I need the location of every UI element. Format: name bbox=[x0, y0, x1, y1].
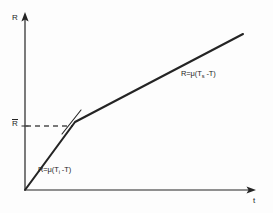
curve-label-upper-prefix: R=μ(T bbox=[181, 69, 202, 78]
curve-label-lower: R=μ(Ti -T) bbox=[38, 165, 71, 174]
curve-label-lower-prefix: R=μ(T bbox=[38, 165, 59, 174]
figure-container: R t R R=μ(Ts -T) R=μ(Ti -T) bbox=[0, 0, 273, 213]
y-tick-label-rbar: R bbox=[12, 119, 18, 128]
curve-label-upper-suffix: -T) bbox=[204, 69, 215, 78]
axis-label-y: R bbox=[12, 13, 18, 22]
plot-canvas bbox=[0, 0, 273, 213]
y-tick-label-rbar-text: R bbox=[12, 119, 18, 128]
curve-label-upper: R=μ(Ts -T) bbox=[181, 69, 216, 78]
tangent-line-at-knee bbox=[62, 110, 81, 134]
curve-label-lower-subscript: i bbox=[59, 169, 60, 175]
axis-label-x: t bbox=[253, 196, 255, 205]
curve-label-lower-suffix: -T) bbox=[60, 165, 71, 174]
